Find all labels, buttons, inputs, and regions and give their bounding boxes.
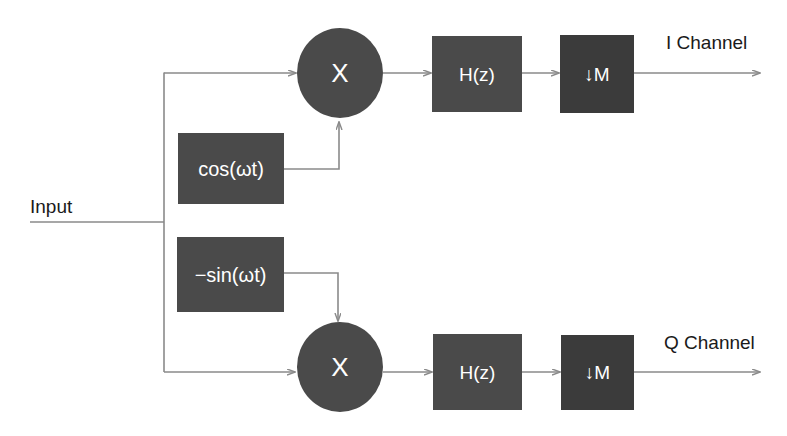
decimator-q-label: ↓M	[585, 363, 610, 382]
filter-i-label: H(z)	[459, 65, 495, 84]
filter-i-block[interactable]: H(z)	[432, 36, 522, 112]
wire-cos-to-mixer-i	[284, 122, 339, 169]
decimator-i-label: ↓M	[584, 65, 609, 84]
filter-q-block[interactable]: H(z)	[433, 334, 522, 410]
wire-layer	[0, 0, 787, 436]
input-label: Input	[30, 197, 72, 216]
filter-q-label: H(z)	[460, 363, 496, 382]
decimator-i-block[interactable]: ↓M	[560, 35, 634, 113]
decimator-q-block[interactable]: ↓M	[561, 335, 634, 410]
block-diagram-canvas: Input I Channel Q Channel X H(z) ↓M cos(…	[0, 0, 787, 436]
oscillator-sin-label: −sin(ωt)	[195, 265, 267, 285]
oscillator-sin-block[interactable]: −sin(ωt)	[177, 237, 284, 312]
oscillator-cos-block[interactable]: cos(ωt)	[178, 133, 284, 204]
mixer-q-label: X	[331, 354, 348, 380]
q-channel-output-label: Q Channel	[664, 333, 755, 352]
mixer-i-block[interactable]: X	[297, 28, 383, 118]
mixer-q-block[interactable]: X	[297, 322, 383, 412]
mixer-i-label: X	[331, 60, 348, 86]
i-channel-output-label: I Channel	[666, 33, 747, 52]
oscillator-cos-label: cos(ωt)	[198, 159, 264, 179]
wire-sin-to-mixer-q	[284, 273, 338, 321]
